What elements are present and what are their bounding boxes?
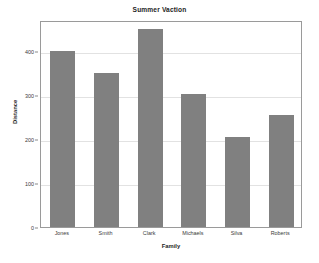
y-axis-tick-label: 0 <box>31 225 34 231</box>
y-axis-tick-mark <box>35 51 38 52</box>
y-axis-tick-mark <box>35 228 38 229</box>
x-axis-tick-label: Smith <box>99 230 113 236</box>
bar[interactable] <box>94 73 119 227</box>
y-axis-tick-label: 400 <box>25 49 34 55</box>
bars-layer <box>41 22 301 227</box>
plot-area <box>40 21 302 228</box>
bar[interactable] <box>181 94 206 227</box>
bar[interactable] <box>225 137 250 227</box>
bar[interactable] <box>269 115 294 227</box>
y-axis-tick-group: 0100200300400 <box>0 21 38 228</box>
x-axis-tick-label: Roberts <box>271 230 290 236</box>
x-axis-tick-label: Michaels <box>182 230 203 236</box>
y-axis-tick-mark <box>35 139 38 140</box>
bar[interactable] <box>50 51 75 227</box>
y-axis-tick-mark <box>35 95 38 96</box>
bar-chart-figure: Summer Vaction Distance 0100200300400 Jo… <box>0 0 319 263</box>
x-axis-tick-group: JonesSmithClarkMichaelsSilvaRoberts <box>40 229 302 241</box>
y-axis-tick-label: 300 <box>25 93 34 99</box>
y-axis-tick-label: 100 <box>25 181 34 187</box>
x-axis-tick-label: Jones <box>55 230 69 236</box>
x-axis-title: Family <box>40 243 302 249</box>
bar[interactable] <box>138 29 163 227</box>
x-axis-tick-label: Clark <box>143 230 156 236</box>
y-axis-tick-mark <box>35 183 38 184</box>
y-axis-tick-label: 200 <box>25 137 34 143</box>
chart-title: Summer Vaction <box>0 6 319 13</box>
x-axis-tick-label: Silva <box>231 230 243 236</box>
